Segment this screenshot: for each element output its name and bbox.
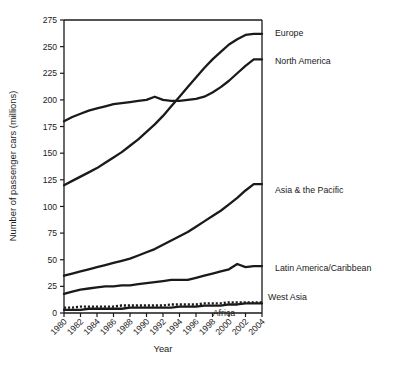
- x-tick-label: 1996: [180, 316, 201, 337]
- y-tick-label: 200: [43, 95, 58, 105]
- series-group: [64, 34, 262, 310]
- y-tick-label: 175: [43, 122, 58, 132]
- y-tick-label: 250: [43, 42, 58, 52]
- series-label-latin-america-caribbean: Latin America/Caribbean: [275, 263, 371, 273]
- series-label-north-america: North America: [275, 56, 331, 66]
- y-axis-title: Number of passenger cars (millions): [7, 91, 18, 242]
- series-label-asia-the-pacific: Asia & the Pacific: [275, 185, 344, 195]
- x-tick-label: 1982: [65, 316, 86, 337]
- x-tick-label: 1994: [164, 316, 185, 337]
- x-tick-label: 2004: [246, 316, 267, 337]
- series-label-africa: Africa: [213, 308, 236, 318]
- x-tick-label: 1990: [131, 316, 152, 337]
- series-label-west-asia: West Asia: [268, 292, 307, 302]
- x-tick-label: 1998: [197, 316, 218, 337]
- series-label-group: EuropeNorth AmericaAsia & the PacificLat…: [213, 28, 372, 318]
- x-tick-label: 1988: [114, 316, 135, 337]
- y-tick-label: 0: [52, 308, 57, 318]
- x-axis-title: Year: [154, 343, 173, 354]
- x-tick-label: 1986: [98, 316, 119, 337]
- x-tick-label: 1984: [81, 316, 102, 337]
- x-tick-label: 1980: [48, 316, 69, 337]
- y-tick-label: 150: [43, 148, 58, 158]
- y-tick-label: 75: [47, 228, 57, 238]
- passenger-cars-line-chart: 0255075100125150175200225250275 19801982…: [0, 0, 395, 370]
- series-line-north-america: [64, 59, 262, 121]
- series-label-europe: Europe: [275, 28, 303, 38]
- y-tick-label: 50: [47, 255, 57, 265]
- x-tick-label: 1992: [147, 316, 168, 337]
- x-tick-label: 2000: [213, 316, 234, 337]
- y-tick-label: 275: [43, 15, 58, 25]
- y-tick-label: 100: [43, 202, 58, 212]
- series-line-asia-the-pacific: [64, 184, 262, 276]
- y-tick-label: 25: [47, 281, 57, 291]
- x-tick-label: 2002: [230, 316, 251, 337]
- y-tick-label: 125: [43, 175, 58, 185]
- y-tick-label: 225: [43, 68, 58, 78]
- chart-svg: 0255075100125150175200225250275 19801982…: [0, 0, 395, 370]
- y-axis-ticks: 0255075100125150175200225250275: [43, 15, 64, 318]
